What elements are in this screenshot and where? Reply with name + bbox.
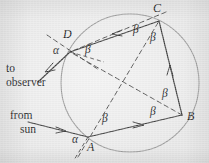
beta-at-D: β — [85, 44, 91, 56]
raindrop-circle — [61, 14, 199, 152]
beta-at-C-right: β — [150, 32, 156, 44]
chord-B-C-arrowhead — [167, 65, 173, 76]
beta-at-A: β — [102, 113, 108, 125]
vertex-label-B: B — [187, 110, 194, 122]
from-sun-line1: from — [10, 110, 32, 122]
to-observer-line2: observer — [6, 77, 46, 89]
from-sun-line2: sun — [20, 124, 36, 136]
beta-at-B-lower: β — [150, 106, 156, 118]
alpha-at-D: α — [53, 45, 59, 57]
chord-C-D-arrowhead — [112, 30, 122, 36]
alpha-at-A: α — [72, 134, 78, 146]
to-observer-line1: to — [6, 63, 15, 75]
beta-at-B-upper: β — [162, 88, 168, 100]
beta-at-C-left: β — [133, 24, 139, 36]
vertex-label-D: D — [63, 28, 72, 40]
vertex-label-C: C — [153, 2, 161, 14]
vertex-label-A: A — [87, 141, 94, 153]
rainbow-ray-diagram: C D B A α α β β β β β β to observer from… — [0, 0, 209, 163]
chord-C-D — [70, 21, 159, 52]
